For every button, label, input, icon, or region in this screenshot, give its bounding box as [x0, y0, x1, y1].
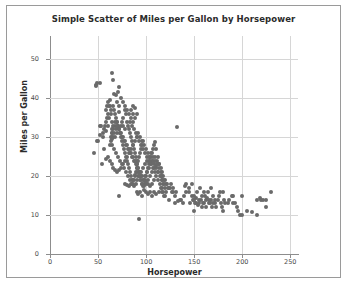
scatter-point [167, 198, 171, 202]
scatter-point [198, 186, 202, 190]
x-axis-label: Horsepower [50, 268, 299, 277]
scatter-point [117, 85, 121, 89]
scatter-point [204, 205, 208, 209]
scatter-point [110, 137, 114, 141]
scatter-point [117, 110, 121, 114]
chart-title: Simple Scatter of Miles per Gallon by Ho… [7, 14, 340, 24]
scatter-point [187, 186, 191, 190]
scatter-point [227, 198, 231, 202]
y-axis-tick-mark [46, 176, 50, 177]
scatter-point [264, 198, 268, 202]
scatter-point [92, 151, 96, 155]
gridline-horizontal [50, 137, 298, 138]
scatter-point [153, 140, 157, 144]
y-axis-tick-label: 40 [15, 94, 39, 102]
scatter-point [255, 213, 259, 217]
gridline-vertical [242, 36, 243, 254]
y-axis-tick-label: 0 [15, 250, 39, 258]
scatter-point [175, 125, 179, 129]
scatter-point [218, 190, 222, 194]
scatter-point [230, 194, 234, 198]
gridline-horizontal [50, 59, 298, 60]
scatter-point [100, 162, 104, 166]
gridline-vertical [194, 36, 195, 254]
scatter-point [245, 209, 249, 213]
scatter-point [98, 81, 102, 85]
scatter-point [110, 71, 114, 75]
gridline-vertical [146, 36, 147, 254]
scatter-point [222, 198, 226, 202]
scatter-point [121, 116, 125, 120]
scatter-point [206, 190, 210, 194]
scatter-point [135, 112, 139, 116]
gridline-vertical [290, 36, 291, 254]
x-axis-tick-label: 150 [179, 258, 209, 266]
chart-frame: Simple Scatter of Miles per Gallon by Ho… [6, 5, 341, 278]
scatter-point [214, 205, 218, 209]
scatter-point [179, 198, 183, 202]
y-axis-tick-mark [46, 215, 50, 216]
y-axis-tick-mark [46, 98, 50, 99]
scatter-point [188, 201, 192, 205]
scatter-point [133, 116, 137, 120]
scatter-point [117, 194, 121, 198]
y-axis-tick-mark [46, 59, 50, 60]
y-axis-label: Miles per Gallon [20, 62, 29, 172]
scatter-point [264, 205, 268, 209]
scatter-point [137, 217, 141, 221]
scatter-point [131, 143, 135, 147]
gridline-horizontal [50, 176, 298, 177]
x-axis-tick-label: 200 [227, 258, 257, 266]
gridline-vertical [98, 36, 99, 254]
gridline-horizontal [50, 98, 298, 99]
scatter-point [127, 112, 131, 116]
scatter-point [217, 194, 221, 198]
scatter-point [250, 210, 254, 214]
scatter-point [221, 209, 225, 213]
scatter-point [102, 147, 106, 151]
scatter-point [181, 201, 185, 205]
scatter-point [240, 213, 244, 217]
scatter-point [123, 127, 127, 131]
scatter-plot-area [50, 36, 298, 254]
scatter-point [111, 78, 115, 82]
scatter-point [131, 104, 135, 108]
scatter-point [164, 190, 168, 194]
scatter-point [182, 194, 186, 198]
scatter-point [240, 194, 244, 198]
scatter-point [101, 135, 105, 139]
scatter-point [116, 90, 120, 94]
y-axis-tick-label: 50 [15, 55, 39, 63]
scatter-point [154, 147, 158, 151]
scatter-point [195, 190, 199, 194]
scatter-point [134, 182, 138, 186]
y-axis-tick-label: 10 [15, 211, 39, 219]
scatter-point [203, 194, 207, 198]
scatter-point [192, 209, 196, 213]
scatter-point [150, 182, 154, 186]
scatter-point [173, 194, 177, 198]
scatter-point [174, 190, 178, 194]
scatter-point [145, 159, 149, 163]
scatter-point [107, 104, 111, 108]
x-axis-tick-label: 250 [275, 258, 305, 266]
scatter-point [148, 174, 152, 178]
gridline-horizontal [50, 215, 298, 216]
scatter-point [207, 198, 211, 202]
scatter-point [137, 155, 141, 159]
x-axis-tick-label: 50 [83, 258, 113, 266]
scatter-point [211, 194, 215, 198]
scatter-point [138, 151, 142, 155]
y-axis-tick-label: 20 [15, 172, 39, 180]
scatter-point [269, 190, 273, 194]
scatter-point [192, 194, 196, 198]
x-axis-tick-label: 0 [35, 258, 65, 266]
scatter-point [129, 108, 133, 112]
x-axis-line [50, 254, 299, 255]
scatter-point [209, 186, 213, 190]
scatter-point [133, 139, 137, 143]
y-axis-tick-label: 30 [15, 133, 39, 141]
scatter-point [140, 194, 144, 198]
y-axis-tick-mark [46, 137, 50, 138]
x-axis-tick-label: 100 [131, 258, 161, 266]
